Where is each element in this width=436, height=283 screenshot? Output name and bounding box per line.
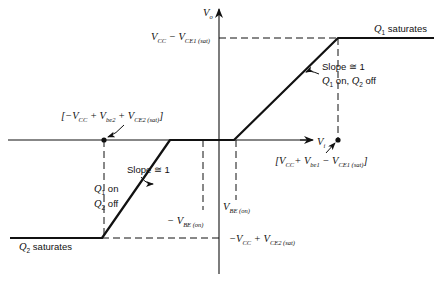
q1-saturates-label: Q1 saturates — [374, 23, 427, 36]
upper-slope-label: Slope ≅ 1 — [322, 61, 365, 72]
pos-breakpoint-leader — [326, 143, 335, 153]
bottom-level-label: −VCC + VCE2 (sat) — [229, 233, 295, 247]
upper-state-label: Q1 on, Q2 off — [322, 75, 376, 88]
lower-slope-label: Slope ≅ 1 — [127, 164, 170, 175]
transfer-curve — [10, 38, 434, 238]
neg-breakpoint-label: [−VCC + Vbe2 + VCE2 (sat)] — [61, 110, 163, 124]
upper-slope-leader — [306, 71, 319, 74]
pos-vbe-label: VBE (on) — [223, 201, 250, 215]
pos-breakpoint-dot — [335, 137, 340, 142]
x-axis-label: Vi — [317, 136, 325, 149]
y-axis-label: Vo — [203, 7, 213, 20]
neg-breakpoint-dot — [101, 137, 106, 142]
lower-state-line2: Q2 off — [94, 198, 119, 211]
transfer-characteristic-diagram: Vo Vi VCC − VCE1 (sat) Q1 saturates Slop… — [0, 0, 436, 283]
top-level-label: VCC − VCE1 (sat) — [151, 31, 210, 45]
pos-breakpoint-label: [VCC+ Vbe1 − VCE1 (sat)] — [275, 155, 368, 169]
q2-saturates-label: Q2 saturates — [19, 241, 72, 254]
neg-breakpoint-leader — [108, 125, 124, 137]
lower-state-line1: Q1 on — [94, 183, 118, 196]
neg-vbe-label: − VBE (on) — [167, 215, 204, 229]
